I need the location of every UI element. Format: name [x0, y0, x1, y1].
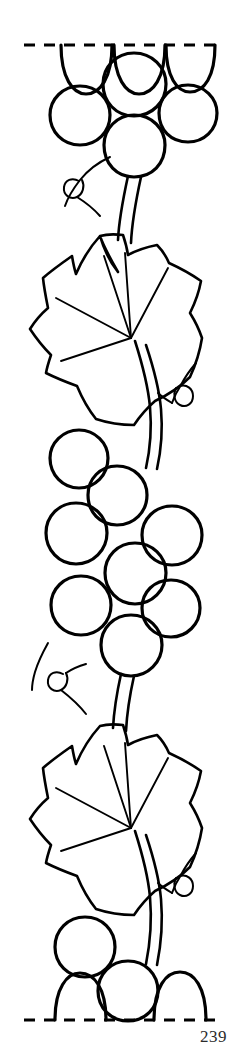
grape: [46, 503, 107, 564]
top-left-tendril: [64, 157, 110, 216]
grape: [101, 615, 162, 676]
grape: [50, 86, 110, 145]
grape: [142, 580, 200, 637]
lower-leaf: [30, 724, 202, 915]
upper-right-tendril: [158, 363, 196, 406]
bottom-grape-cluster: [55, 917, 206, 1021]
grapevine-border-artwork: [0, 0, 245, 1056]
lower-right-tendril: [158, 853, 196, 896]
middle-stem: [135, 341, 162, 469]
page-number: 239: [200, 1028, 227, 1045]
middle-grape-cluster: [46, 430, 202, 676]
pattern-page: 239: [0, 0, 245, 1056]
leaf-vein: [131, 268, 168, 338]
top-grape-cluster: [50, 45, 217, 177]
grape: [51, 576, 111, 635]
grape: [88, 466, 147, 525]
lower-stem: [113, 674, 134, 731]
leaf-vein: [61, 338, 131, 361]
grape: [105, 543, 166, 604]
grape-partial: [154, 972, 206, 1020]
grape: [104, 115, 165, 177]
grape: [50, 430, 108, 488]
upper-leaf: [30, 234, 202, 425]
grape: [159, 85, 217, 142]
leaf-vein: [61, 828, 131, 851]
upper-stem: [118, 176, 141, 243]
leaf-vein: [131, 758, 168, 828]
middle-left-tendril: [32, 643, 86, 714]
grape: [142, 506, 202, 565]
